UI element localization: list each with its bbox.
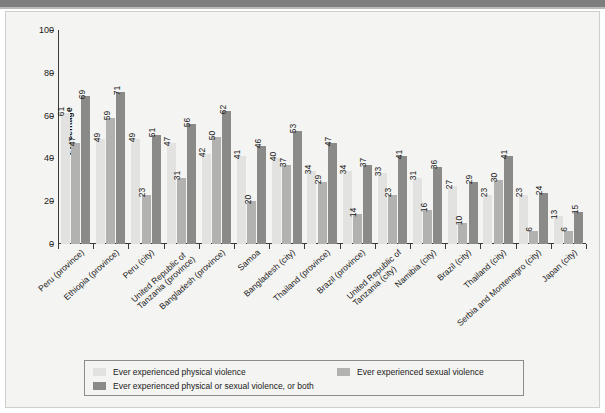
bar: 6 xyxy=(529,231,538,244)
bar-value-label: 47 xyxy=(67,137,76,146)
y-tick-mark xyxy=(50,30,54,31)
bar-value-label: 37 xyxy=(278,158,287,167)
legend-item-sexual: Ever experienced sexual violence xyxy=(337,367,484,377)
bar-value-label: 71 xyxy=(112,85,121,94)
bar-groups-container: 6147694959714923514731564250624120464037… xyxy=(58,30,586,244)
bar-value-label: 16 xyxy=(419,203,428,212)
x-category-label: Samoa xyxy=(236,248,262,273)
legend-item-physical: Ever experienced physical violence xyxy=(93,367,246,377)
bar-value-label: 46 xyxy=(253,139,262,148)
y-tick-mark xyxy=(50,201,54,202)
bar-group: 492351 xyxy=(128,30,163,244)
bar: 56 xyxy=(187,124,196,244)
x-category-label-line: Samoa xyxy=(236,248,262,273)
y-tick-mark xyxy=(50,244,54,245)
bar-value-label: 37 xyxy=(359,158,368,167)
bar: 16 xyxy=(423,210,432,244)
bar-value-label: 14 xyxy=(349,207,358,216)
bar-value-label: 20 xyxy=(243,194,252,203)
bar-value-label: 53 xyxy=(289,124,298,133)
plot-area: Percentage 100806040200 6147694959714923… xyxy=(58,30,586,244)
bar-value-label: 31 xyxy=(173,171,182,180)
bar: 29 xyxy=(469,182,478,244)
bar: 41 xyxy=(504,156,513,244)
bar: 61 xyxy=(61,113,70,244)
bar: 47 xyxy=(71,143,80,244)
bar: 37 xyxy=(282,165,291,244)
bar-group: 341437 xyxy=(340,30,375,244)
bar: 40 xyxy=(272,158,281,244)
bar-value-label: 24 xyxy=(535,186,544,195)
bar-group: 614769 xyxy=(58,30,93,244)
bar: 37 xyxy=(363,165,372,244)
bar-value-label: 34 xyxy=(303,165,312,174)
bar-group: 342947 xyxy=(304,30,339,244)
bar-value-label: 59 xyxy=(102,111,111,120)
y-tick-mark xyxy=(50,73,54,74)
legend-swatch-physical xyxy=(93,368,106,376)
bar: 20 xyxy=(247,201,256,244)
bar: 53 xyxy=(293,131,302,244)
bar-value-label: 29 xyxy=(314,175,323,184)
bar-value-label: 29 xyxy=(465,175,474,184)
chart-page: Percentage 100806040200 6147694959714923… xyxy=(0,0,605,413)
bar: 23 xyxy=(142,195,151,244)
bar: 41 xyxy=(398,156,407,244)
bar-value-label: 61 xyxy=(57,107,66,116)
bar: 6 xyxy=(564,231,573,244)
legend-swatch-either xyxy=(93,382,106,390)
bar: 30 xyxy=(494,180,503,244)
bar-value-label: 15 xyxy=(570,205,579,214)
bar-value-label: 41 xyxy=(500,150,509,159)
bar-group: 271029 xyxy=(445,30,480,244)
bar-value-label: 23 xyxy=(515,188,524,197)
bar-group: 311636 xyxy=(410,30,445,244)
bar-value-label: 30 xyxy=(490,173,499,182)
y-tick-mark xyxy=(50,116,54,117)
bar: 23 xyxy=(388,195,397,244)
bar: 71 xyxy=(116,92,125,244)
bar-value-label: 49 xyxy=(127,132,136,141)
bar: 51 xyxy=(152,135,161,244)
bar-value-label: 36 xyxy=(429,160,438,169)
x-axis-category-labels: Peru (province)Ethiopia (province)Peru (… xyxy=(58,248,586,358)
bar: 33 xyxy=(378,173,387,244)
bar-value-label: 6 xyxy=(560,227,569,232)
bar-value-label: 23 xyxy=(479,188,488,197)
bar-value-label: 13 xyxy=(550,209,559,218)
x-category-label: Japan (city) xyxy=(540,248,579,284)
bar: 23 xyxy=(483,195,492,244)
chart-legend: Ever experienced physical violence Ever … xyxy=(84,360,524,396)
bar-value-label: 50 xyxy=(208,130,217,139)
bar-value-label: 47 xyxy=(163,137,172,146)
bar-value-label: 62 xyxy=(218,105,227,114)
bar: 24 xyxy=(539,193,548,244)
chart-figure-panel: Percentage 100806040200 6147694959714923… xyxy=(5,11,600,408)
bar-group: 425062 xyxy=(199,30,234,244)
bar-group: 403753 xyxy=(269,30,304,244)
bar-value-label: 49 xyxy=(92,132,101,141)
legend-label-either: Ever experienced physical or sexual viol… xyxy=(113,381,314,391)
bar: 69 xyxy=(81,96,90,244)
bar-group: 13615 xyxy=(551,30,586,244)
y-axis-tick-labels: 100806040200 xyxy=(28,30,54,244)
bar-group: 412046 xyxy=(234,30,269,244)
bar: 15 xyxy=(574,212,583,244)
x-tick-mark xyxy=(586,244,587,249)
legend-label-sexual: Ever experienced sexual violence xyxy=(357,367,484,377)
bar-value-label: 34 xyxy=(339,165,348,174)
bar-value-label: 31 xyxy=(409,171,418,180)
bar-value-label: 41 xyxy=(233,150,242,159)
bar: 36 xyxy=(433,167,442,244)
bar: 62 xyxy=(222,111,231,244)
bar-value-label: 56 xyxy=(183,117,192,126)
bar-group: 495971 xyxy=(93,30,128,244)
bar-value-label: 6 xyxy=(525,227,534,232)
bar-group: 473156 xyxy=(164,30,199,244)
bar-value-label: 33 xyxy=(374,167,383,176)
bar-value-label: 41 xyxy=(394,150,403,159)
bar: 14 xyxy=(353,214,362,244)
bar-value-label: 40 xyxy=(268,152,277,161)
bar: 59 xyxy=(106,118,115,244)
bar: 50 xyxy=(212,137,221,244)
